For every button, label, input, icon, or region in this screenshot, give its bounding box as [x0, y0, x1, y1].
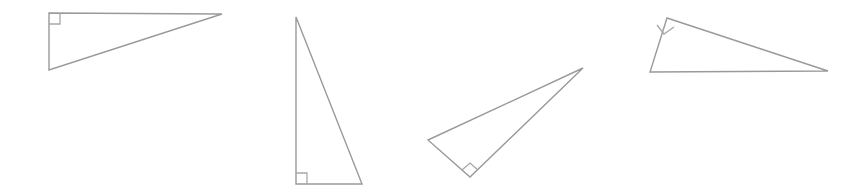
- right-angle-marker-4: [657, 25, 674, 34]
- triangles-figure: [0, 0, 863, 195]
- triangle-1-group: [49, 13, 222, 70]
- triangle-2: [296, 17, 362, 184]
- triangle-4-group: [650, 18, 828, 72]
- figure-canvas: [0, 0, 863, 195]
- triangle-1: [49, 13, 222, 70]
- triangle-2-group: [296, 17, 362, 184]
- right-angle-marker-2: [296, 173, 307, 184]
- triangle-3-group: [428, 68, 583, 177]
- triangle-4: [650, 18, 828, 72]
- right-angle-marker-1: [49, 13, 60, 24]
- triangle-3: [428, 68, 583, 177]
- right-angle-marker-3: [462, 163, 478, 170]
